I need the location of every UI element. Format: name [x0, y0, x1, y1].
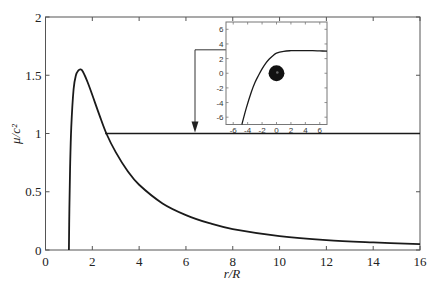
inset-y-tick-label: -6: [216, 113, 224, 122]
inset-y-tick-label: -2: [216, 84, 224, 93]
inset-x-tick-label: 2: [289, 126, 294, 135]
inset-y-tick-label: -4: [216, 99, 224, 108]
y-axis-label: μ/c²: [8, 123, 23, 145]
x-tick-label: 16: [414, 254, 428, 269]
x-axis-label: r/R: [224, 266, 241, 281]
inset-x-tick-label: -2: [259, 126, 267, 135]
x-tick-label: 4: [136, 254, 143, 269]
inset-plot: -6-4-202466420-2-4-6: [216, 22, 327, 135]
inset-y-tick-label: 4: [219, 40, 224, 49]
y-tick-label: 0.5: [25, 184, 41, 199]
y-tick-label: 2: [35, 10, 42, 25]
y-tick-label: 0: [35, 243, 42, 258]
inset-y-tick-label: 6: [219, 25, 224, 34]
y-tick-label: 1.5: [25, 68, 41, 83]
arrowhead-icon: [192, 122, 199, 133]
inset-x-tick-label: 0: [274, 126, 279, 135]
inset-x-tick-label: 4: [303, 126, 308, 135]
x-tick-label: 2: [89, 254, 96, 269]
x-tick-label: 10: [273, 254, 286, 269]
inset-y-tick-label: 0: [219, 69, 224, 78]
y-tick-label: 1: [35, 126, 42, 141]
inset-x-tick-label: -6: [230, 126, 238, 135]
inset-circle-highlight: [276, 71, 279, 74]
inset-x-tick-label: 6: [318, 126, 323, 135]
x-tick-label: 0: [42, 254, 49, 269]
x-tick-label: 12: [320, 254, 333, 269]
chart-canvas: 024681012141600.511.52 -6-4-202466420-2-…: [0, 0, 434, 289]
x-tick-label: 14: [367, 254, 381, 269]
inset-x-tick-label: -4: [244, 126, 252, 135]
inset-y-tick-label: 2: [219, 55, 224, 64]
x-tick-label: 6: [183, 254, 190, 269]
